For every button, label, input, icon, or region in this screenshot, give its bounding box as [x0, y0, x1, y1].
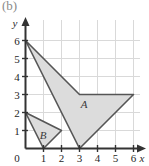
y-tick-label-4: 4: [14, 71, 20, 83]
shape-b-label: B: [40, 129, 47, 141]
y-tick-label-6: 6: [14, 35, 20, 47]
x-tick-label-2: 2: [59, 152, 65, 164]
origin-label: 0: [14, 152, 20, 164]
x-tick-label-5: 5: [113, 152, 119, 164]
figure-panel: (b): [0, 0, 149, 166]
coordinate-plot: 6 5 4 3 2 1 0 1 2 3 4 5 6 y x A B: [0, 0, 149, 166]
y-tick-label-3: 3: [14, 89, 20, 101]
x-tick-label-6: 6: [131, 152, 137, 164]
x-tick-label-4: 4: [95, 152, 101, 164]
y-tick-label-5: 5: [14, 53, 20, 65]
x-tick-label-3: 3: [77, 152, 83, 164]
y-axis-label: y: [12, 17, 18, 29]
x-axis-label: x: [139, 152, 145, 164]
x-tick-label-1: 1: [41, 152, 47, 164]
y-axis-arrowhead: [22, 17, 30, 26]
y-tick-label-1: 1: [14, 125, 20, 137]
y-tick-label-2: 2: [14, 107, 20, 119]
shape-a-label: A: [80, 98, 88, 110]
